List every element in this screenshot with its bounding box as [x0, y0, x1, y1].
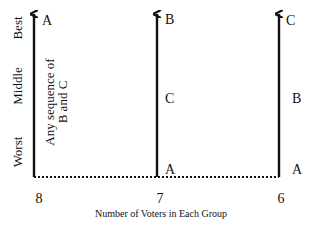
group-8-note-line2: B and C — [55, 81, 70, 124]
preference-diagram: Best Middle Worst A Any sequence of B an… — [0, 0, 314, 229]
group-8-best-label: A — [42, 13, 53, 28]
rank-label-worst: Worst — [10, 136, 25, 167]
group-7-worst-label: A — [165, 162, 176, 177]
rank-label-middle: Middle — [10, 67, 25, 105]
group-7-middle-label: C — [165, 91, 174, 106]
group-6-worst-label: A — [292, 162, 303, 177]
group-6-voter-count: 6 — [278, 191, 285, 206]
group-7-best-label: B — [165, 12, 174, 27]
x-axis-caption: Number of Voters in Each Group — [95, 208, 227, 219]
rank-label-best: Best — [10, 16, 25, 40]
group-6-middle-label: B — [292, 91, 301, 106]
group-7-voter-count: 7 — [157, 191, 164, 206]
group-8-voter-count: 8 — [36, 191, 43, 206]
group-6-best-label: C — [286, 13, 295, 28]
